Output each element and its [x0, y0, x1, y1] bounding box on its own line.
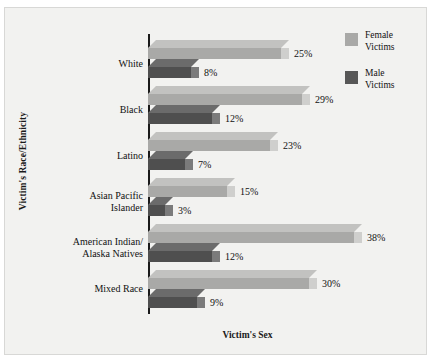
bar-side-face [227, 186, 235, 197]
bar-top-face [148, 270, 317, 278]
y-axis-title: Victim's Race/Ethnicity [18, 81, 28, 241]
value-label-female-white: 25% [294, 48, 312, 59]
bar-front-face [148, 186, 227, 197]
category-label-american-indian-alaska-natives: American Indian/ Alaska Natives [15, 236, 143, 259]
value-label-male-latino: 7% [198, 159, 211, 170]
value-label-female-american-indian-alaska-natives: 38% [367, 232, 385, 243]
value-label-male-american-indian-alaska-natives: 12% [225, 251, 243, 262]
bar-top-face [148, 132, 278, 140]
bar-side-face [270, 140, 278, 151]
bar-front-face [148, 278, 309, 289]
category-label-line1: Latino [15, 150, 143, 162]
bar-top-face [148, 178, 235, 186]
bar-top-face [148, 59, 199, 67]
bar-side-face [191, 67, 199, 78]
legend-label-line2: Victims [365, 42, 425, 54]
value-label-female-black: 29% [315, 94, 333, 105]
bar-front-face [148, 251, 212, 262]
category-label-line2: Islander [15, 202, 143, 214]
category-label-asian-pacific-islander: Asian Pacific Islander [15, 190, 143, 213]
bar-top-face [148, 243, 220, 251]
bar-top-face [148, 197, 173, 205]
bar-side-face [281, 48, 289, 59]
legend-label-line1: Female [365, 30, 425, 42]
bar-side-face [212, 251, 220, 262]
bar-side-face [212, 113, 220, 124]
legend-label-line1: Male [365, 68, 425, 80]
legend-swatch-female-icon [345, 33, 358, 46]
bar-side-face [309, 278, 317, 289]
bar-side-face [354, 232, 362, 243]
bar-front-face [148, 113, 212, 124]
value-label-male-white: 8% [204, 67, 217, 78]
bar-side-face [165, 205, 173, 216]
value-label-female-asian-pacific-islander: 15% [240, 186, 258, 197]
bar-front-face [148, 159, 185, 170]
category-label-latino: Latino [15, 150, 143, 162]
bar-side-face [197, 297, 205, 308]
value-label-female-latino: 23% [283, 140, 301, 151]
bar-front-face [148, 140, 270, 151]
bar-side-face [302, 94, 310, 105]
legend-swatch-male-icon [345, 71, 358, 84]
category-label-mixed-race: Mixed Race [15, 283, 143, 295]
category-label-line1: Black [15, 104, 143, 116]
bar-front-face [148, 232, 354, 243]
value-label-male-mixed-race: 9% [210, 297, 223, 308]
value-label-male-black: 12% [225, 113, 243, 124]
legend-label-line2: Victims [365, 80, 425, 92]
bar-side-face [185, 159, 193, 170]
legend-item-male-victims[interactable]: Male Victims [345, 70, 425, 96]
value-label-male-asian-pacific-islander: 3% [178, 205, 191, 216]
category-label-line1: Mixed Race [15, 283, 143, 295]
bar-front-face [148, 205, 165, 216]
value-label-female-mixed-race: 30% [322, 278, 340, 289]
bar-top-face [148, 86, 310, 94]
bar-front-face [148, 67, 191, 78]
legend-label-female-victims: Female Victims [365, 30, 425, 53]
chart-legend: Female Victims Male Victims [345, 32, 425, 108]
category-label-line1: White [15, 58, 143, 70]
bar-front-face [148, 48, 281, 59]
bar-top-face [148, 40, 289, 48]
bar-top-face [148, 151, 193, 159]
category-label-white: White [15, 58, 143, 70]
category-label-line1: American Indian/ [15, 236, 143, 248]
bar-front-face [148, 297, 197, 308]
bar-top-face [148, 289, 205, 297]
category-label-black: Black [15, 104, 143, 116]
category-label-line2: Alaska Natives [15, 248, 143, 260]
bar-front-face [148, 94, 302, 105]
x-axis-title: Victim's Sex [5, 330, 428, 340]
legend-label-male-victims: Male Victims [365, 68, 425, 91]
chart-frame: White Black Latino Asian Pacific Islande… [4, 7, 427, 355]
bar-top-face [148, 224, 362, 232]
legend-item-female-victims[interactable]: Female Victims [345, 32, 425, 58]
category-label-line1: Asian Pacific [15, 190, 143, 202]
bar-top-face [148, 105, 220, 113]
